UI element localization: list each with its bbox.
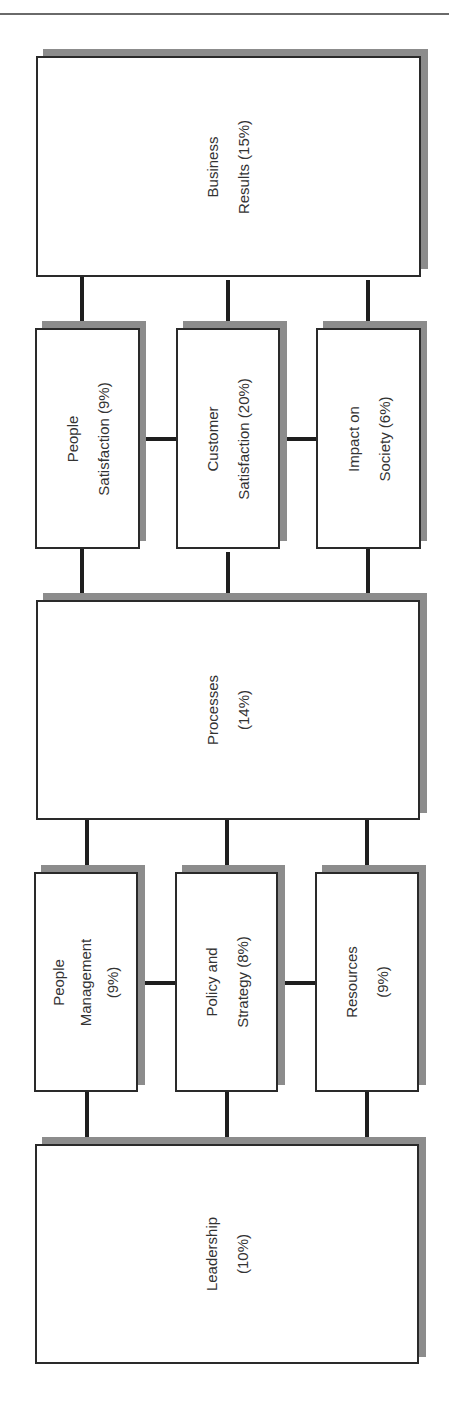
impact-on-society-box: Impact on Society (6%) [316, 328, 421, 549]
connector-processes-resources [365, 820, 369, 865]
connector-processes-people-mgmt [85, 820, 89, 865]
customer-satisfaction-box: Customer Satisfaction (20%) [176, 328, 280, 549]
people-satisfaction-label: People Satisfaction (9%) [57, 382, 119, 495]
policy-and-strategy-label: Policy and Strategy (8%) [195, 936, 257, 1028]
connector-customer-sat-processes [226, 552, 230, 593]
business-results-box: Business Results (15%) [36, 56, 421, 277]
connector-resources-leadership [365, 1092, 369, 1137]
resources-box: Resources (9%) [315, 872, 419, 1092]
connector-people-mgmt-policy [145, 981, 175, 985]
connector-policy-leadership [225, 1092, 229, 1137]
business-results-label: Business Results (15%) [197, 119, 259, 213]
customer-satisfaction-label: Customer Satisfaction (20%) [197, 378, 259, 500]
leadership-label: Leadership (10%) [196, 1217, 258, 1291]
people-satisfaction-box: People Satisfaction (9%) [35, 328, 140, 549]
connector-br-people-sat [80, 277, 84, 327]
impact-on-society-label: Impact on Society (6%) [338, 396, 400, 481]
top-rule [0, 13, 449, 15]
people-management-box: People Management (9%) [34, 872, 138, 1092]
resources-label: Resources (9%) [336, 946, 398, 1018]
connector-br-society [366, 280, 370, 327]
connector-society-processes [366, 549, 370, 593]
connector-people-sat-processes [80, 549, 84, 593]
connector-people-mgmt-leadership [85, 1092, 89, 1137]
policy-and-strategy-box: Policy and Strategy (8%) [175, 872, 278, 1092]
people-management-label: People Management (9%) [46, 938, 127, 1026]
processes-label: Processes (14%) [197, 675, 259, 745]
connector-br-customer-sat [226, 280, 230, 327]
connector-customer-society [287, 437, 316, 441]
connector-processes-policy [225, 820, 229, 865]
processes-box: Processes (14%) [36, 600, 420, 820]
connector-policy-resources [285, 981, 315, 985]
connector-people-customer-sat [146, 437, 176, 441]
leadership-box: Leadership (10%) [35, 1144, 419, 1364]
